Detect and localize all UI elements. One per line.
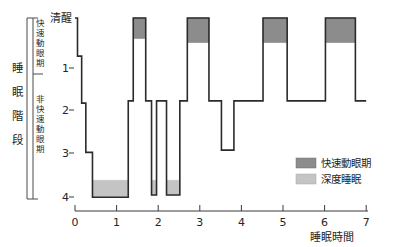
sleep-stage-chart: 睡 眠 階 段 快 速 動 眼 期 非 快 速 動 眼 期 清醒 1	[0, 0, 393, 247]
svg-text:期: 期	[36, 144, 45, 154]
x-tick-label-0: 0	[72, 216, 79, 229]
y-tick-2: 2	[62, 104, 69, 117]
svg-text:快: 快	[36, 104, 45, 114]
x-tick-label-1: 1	[113, 216, 120, 229]
y-axis-title-char-4: 段	[12, 133, 24, 147]
svg-text:眼: 眼	[36, 48, 45, 58]
legend: 快速動眼期 深度睡眠	[296, 157, 371, 185]
deep-sleep-block-0	[92, 180, 128, 197]
svg-text:速: 速	[36, 28, 45, 38]
y-axis-title: 睡 眠 階 段	[12, 61, 24, 147]
bracket-label-rem: 快 速 動 眼 期	[36, 18, 45, 68]
y-tick-1: 1	[62, 62, 69, 75]
svg-text:期: 期	[36, 58, 45, 68]
y-tick-awake: 清醒	[50, 12, 72, 25]
svg-text:非: 非	[36, 94, 45, 104]
y-axis-title-char-2: 眠	[12, 85, 24, 99]
bracket-label-nrem: 非 快 速 動 眼 期	[36, 94, 45, 154]
hypnogram-figure: 睡 眠 階 段 快 速 動 眼 期 非 快 速 動 眼 期 清醒 1	[0, 0, 393, 247]
x-tick-label-7: 7	[363, 216, 370, 229]
rem-block-2	[263, 18, 287, 43]
x-tick-marks	[75, 205, 366, 211]
outer-stage-bracket	[27, 18, 33, 199]
y-axis-title-char-3: 階	[12, 109, 24, 123]
x-axis-title: 睡眠時間	[310, 231, 354, 244]
legend-swatch-deep	[296, 174, 316, 184]
legend-label-rem: 快速動眼期	[321, 157, 371, 169]
x-tick-label-3: 3	[196, 216, 203, 229]
rem-block-3	[325, 18, 355, 43]
x-tick-label-5: 5	[280, 216, 287, 229]
svg-text:眼: 眼	[36, 134, 45, 144]
y-tick-3: 3	[62, 147, 69, 160]
x-tick-label-6: 6	[321, 216, 328, 229]
y-tick-marks	[69, 68, 74, 197]
rem-blocks	[133, 18, 355, 43]
x-tick-label-4: 4	[238, 216, 245, 229]
svg-text:動: 動	[36, 124, 45, 134]
svg-text:速: 速	[36, 114, 45, 124]
deep-sleep-block-2	[167, 180, 180, 195]
svg-text:動: 動	[36, 38, 45, 48]
svg-text:快: 快	[36, 18, 45, 28]
legend-swatch-rem	[296, 158, 316, 168]
rem-block-1	[187, 18, 209, 43]
y-tick-4: 4	[62, 191, 69, 204]
rem-block-0	[133, 18, 145, 39]
hypnogram-trace	[75, 18, 366, 197]
y-axis-title-char-1: 睡	[12, 61, 23, 75]
x-tick-label-2: 2	[155, 216, 162, 229]
x-tick-labels: 01234567	[72, 216, 370, 229]
legend-label-deep: 深度睡眠	[321, 173, 362, 185]
